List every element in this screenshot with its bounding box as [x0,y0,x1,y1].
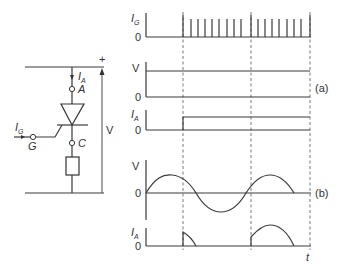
part-a-label: (a) [315,82,328,94]
v-axis-label: V [132,62,140,74]
part-b-label: (b) [315,187,328,199]
thyristor-triangle-icon [61,104,84,125]
svg-text:0: 0 [135,124,141,136]
ia-a-plot: IA 0 [131,108,310,136]
gate-wire [36,125,62,137]
svg-text:0: 0 [135,91,141,103]
voltage-label: V [106,124,114,136]
gate-label: G [28,140,37,152]
ig-plot: IG 0 [131,12,311,43]
plus-label: + [99,53,105,65]
ig-axis-label: IG [131,12,140,26]
ig-label: IG [15,121,24,135]
anode-label: A [77,83,85,95]
ia-arrow-icon [70,75,74,80]
anode-current-pulse-1 [183,232,196,246]
svg-text:0: 0 [135,187,141,199]
svg-text:V: V [132,160,140,172]
cathode-terminal [69,140,74,145]
time-axis-label: t [306,251,310,263]
thyristor-diagram: IA A IG G C + V IG 0 V 0 [0,0,341,267]
ig-arrow-icon [21,135,25,139]
anode-current-step [183,117,310,130]
ia-label: IA [78,70,86,84]
anode-current-pulse-2 [251,225,294,246]
voltage-arrow-icon [100,68,105,75]
va-plot: V 0 (a) [132,62,328,103]
load-resistor [66,157,79,175]
cathode-label: C [78,137,86,149]
time-markers [183,12,310,250]
ia-b-plot: IA 0 t [131,225,311,263]
circuit: IA A IG G C + V [14,53,114,193]
svg-text:IA: IA [131,226,139,240]
vb-plot: V 0 (b) [132,160,328,220]
svg-text:0: 0 [135,240,141,252]
svg-text:IA: IA [131,108,139,122]
gate-terminal [30,134,35,139]
zero-label: 0 [135,31,141,43]
anode-terminal [69,86,74,91]
gate-pulses [183,15,310,37]
